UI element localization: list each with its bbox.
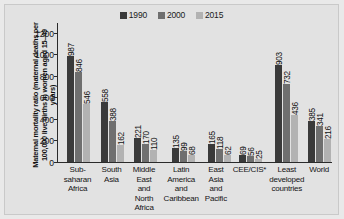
legend-swatch-icon: [158, 12, 165, 19]
legend-label: 2000: [167, 10, 185, 20]
chart-plate: 199020002015 Maternal mortality ratio (m…: [4, 4, 339, 215]
bar-value-label: 558: [101, 90, 110, 103]
y-axis-tick-label: 800: [40, 72, 54, 82]
bar-group: 385341216: [306, 23, 332, 162]
bar: 846: [75, 72, 82, 162]
legend-item: 2000: [158, 10, 185, 20]
x-axis-category-line: developed: [268, 175, 305, 185]
x-axis-category-line: countries: [268, 184, 305, 194]
bar-value-label: 987: [67, 44, 76, 57]
bar: 546: [83, 104, 90, 162]
bar-value-label: 68: [188, 146, 197, 155]
y-axis-title-wrap: Maternal mortality ratio (maternal death…: [8, 21, 34, 169]
legend-swatch-icon: [196, 12, 203, 19]
y-axis-tick-label: 1200: [35, 29, 54, 39]
bar-value-label: 546: [83, 91, 92, 104]
x-axis-category-line: Pacific: [201, 194, 231, 204]
x-axis-line: [57, 162, 332, 163]
bar: 170: [142, 144, 149, 162]
x-axis-category-line: Least: [268, 165, 305, 175]
legend-label: 1990: [129, 10, 147, 20]
bar-value-label: 62: [224, 147, 233, 156]
y-axis-tick-mark: [54, 76, 57, 77]
bar-value-label: 341: [316, 113, 325, 126]
bar-groups: 9878465465583881622211701101359968165118…: [58, 23, 332, 162]
y-axis-tick-label: 200: [40, 136, 54, 146]
x-axis-category-line: Sub-: [59, 165, 96, 175]
x-axis-category-label: World: [306, 165, 332, 175]
legend-label: 2015: [205, 10, 223, 20]
x-axis-category-line: East: [201, 165, 231, 175]
y-axis-tick-label: 1000: [35, 50, 54, 60]
bar: 25: [255, 159, 262, 162]
bar-value-label: 25: [255, 151, 264, 160]
x-axis-category-line: East: [127, 175, 161, 185]
chart-legend: 199020002015: [5, 10, 338, 20]
bar: 69: [239, 155, 246, 162]
x-axis-category-line: South: [98, 165, 125, 175]
bar: 221: [134, 138, 141, 162]
x-axis-category-label: EastAsiaandPacific: [200, 165, 232, 203]
x-axis-category-label: MiddleEastandNorthAfrica: [126, 165, 162, 213]
x-axis-category-line: saharan: [59, 175, 96, 185]
x-axis-category-line: Latin: [163, 165, 199, 175]
y-axis-tick-mark: [54, 54, 57, 55]
y-axis-tick-mark: [54, 33, 57, 34]
y-axis-tick-mark: [54, 162, 57, 163]
x-axis-category-line: and: [163, 184, 199, 194]
bar-group: 987846546: [58, 23, 98, 162]
bar-value-label: 903: [275, 53, 284, 66]
bar-group: 558388162: [98, 23, 127, 162]
bar: 436: [291, 115, 298, 162]
plot-area: 020040060080010001200 987846546558388162…: [57, 23, 332, 163]
x-axis-category-line: and: [201, 184, 231, 194]
y-axis-tick-label: 400: [40, 115, 54, 125]
bar: 56: [247, 156, 254, 162]
y-axis-tick-label: 600: [40, 93, 54, 103]
bar: 388: [109, 121, 116, 162]
bar: 165: [208, 144, 215, 162]
x-axis-category-line: Africa: [59, 184, 96, 194]
x-axis-category-line: Caribbean: [163, 194, 199, 204]
bar-value-label: 846: [75, 59, 84, 72]
bar: 68: [188, 155, 195, 162]
x-axis-category-line: World: [307, 165, 331, 175]
bar: 732: [283, 84, 290, 162]
bar-value-label: 388: [109, 108, 118, 121]
x-axis-labels: Sub-saharanAfricaSouthAsiaMiddleEastandN…: [58, 165, 332, 213]
x-axis-category-line: America: [163, 175, 199, 185]
x-axis-category-line: and: [127, 184, 161, 194]
x-axis-category-label: Sub-saharanAfrica: [58, 165, 97, 194]
bar: 135: [172, 148, 179, 162]
bar: 162: [117, 145, 124, 162]
x-axis-category-label: SouthAsia: [97, 165, 126, 184]
bar-value-label: 110: [150, 138, 159, 150]
bar: 385: [308, 121, 315, 162]
bar-value-label: 162: [117, 132, 126, 145]
x-axis-category-label: LatinAmericaandCaribbean: [162, 165, 200, 203]
bar: 987: [67, 56, 74, 162]
bar-value-label: 216: [324, 126, 333, 139]
x-axis-category-line: Asia: [201, 175, 231, 185]
chart-figure: 199020002015 Maternal mortality ratio (m…: [0, 0, 344, 219]
x-axis-category-line: CEE/CIS*: [233, 165, 267, 175]
bar-group: 1359968: [164, 23, 203, 162]
x-axis-category-label: Leastdevelopedcountries: [267, 165, 306, 194]
y-axis-tick-mark: [54, 140, 57, 141]
bar: 341: [316, 126, 323, 162]
legend-item: 1990: [120, 10, 147, 20]
bar: 118: [216, 149, 223, 162]
bar: 558: [101, 102, 108, 162]
x-axis-category-line: Middle: [127, 165, 161, 175]
x-axis-category-line: North: [127, 194, 161, 204]
x-axis-category-line: Africa: [127, 203, 161, 213]
bar-value-label: 436: [291, 103, 300, 116]
legend-swatch-icon: [120, 12, 127, 19]
y-axis-tick-mark: [54, 119, 57, 120]
bar-value-label: 732: [283, 71, 292, 84]
bar: 216: [324, 139, 331, 162]
bar: 99: [180, 151, 187, 162]
y-axis-tick-mark: [54, 97, 57, 98]
bar: 110: [150, 150, 157, 162]
bar-group: 16511862: [203, 23, 235, 162]
